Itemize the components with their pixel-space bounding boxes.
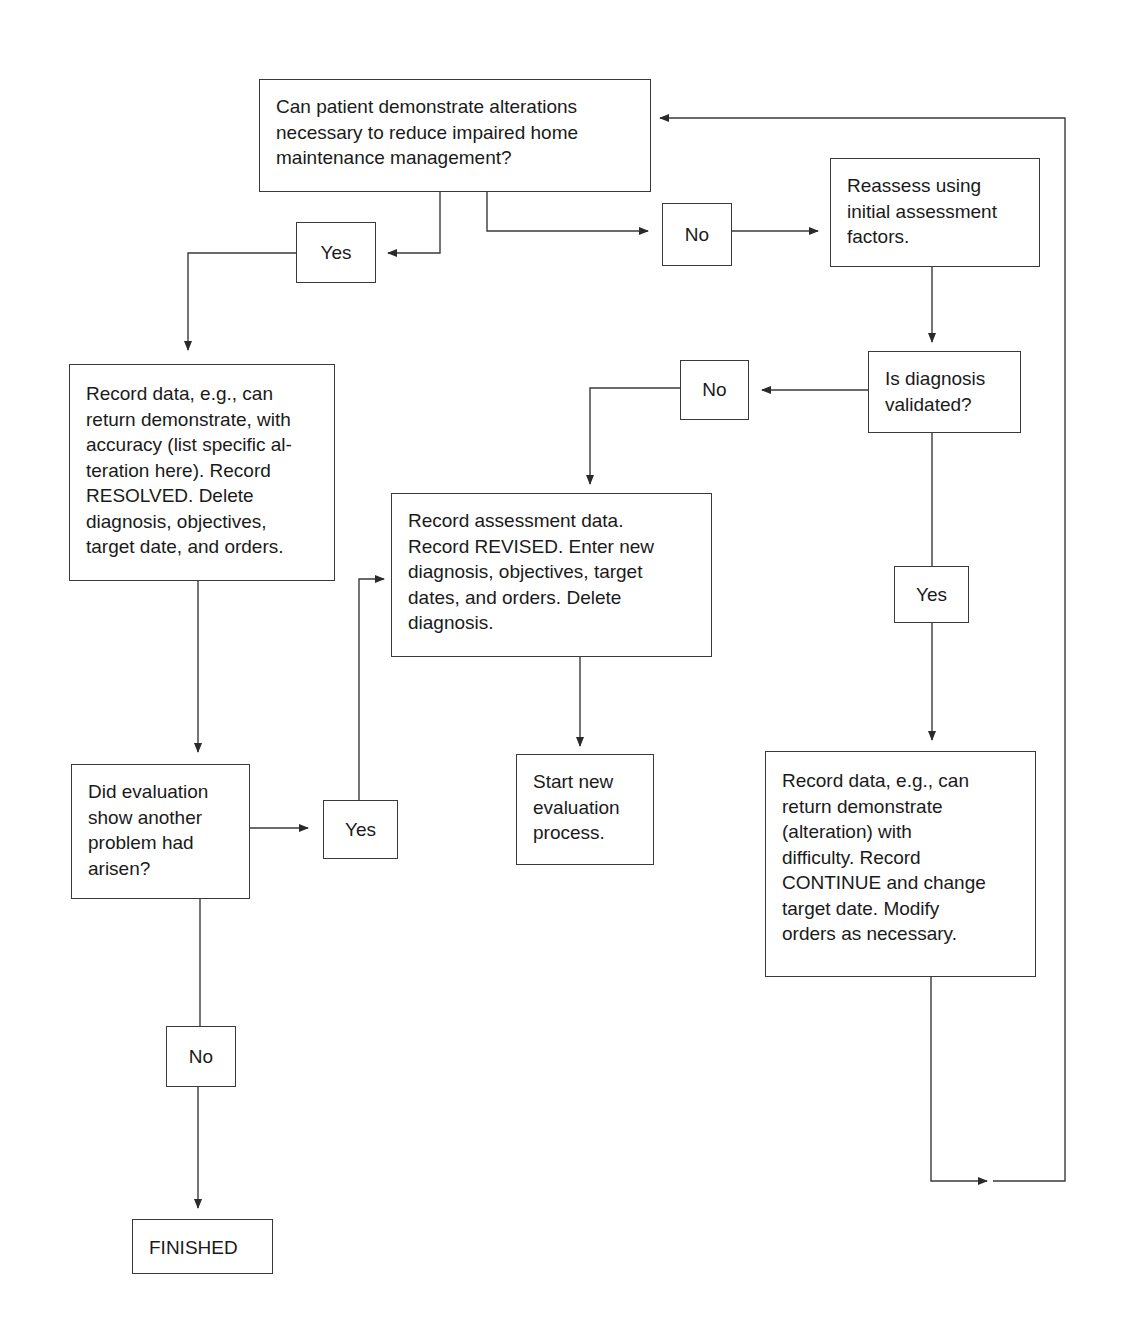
- diagnosis-validated-box: Is diagnosis validated?: [868, 351, 1021, 433]
- flowchart: Can patient demonstrate alterations nece…: [0, 0, 1123, 1334]
- no-label-box-2: No: [680, 360, 749, 420]
- no-label-box-3: No: [166, 1026, 236, 1087]
- no-label-box: No: [662, 203, 732, 266]
- yes-label-box-2: Yes: [894, 566, 969, 623]
- yes-label-box-3: Yes: [323, 800, 398, 859]
- start-question-box: Can patient demonstrate alterations nece…: [259, 79, 651, 192]
- yes-label-box: Yes: [296, 222, 376, 283]
- revised-record-box: Record assessment data. Record REVISED. …: [391, 493, 712, 657]
- continue-record-box: Record data, e.g., can return demonstrat…: [765, 751, 1036, 977]
- finished-box: FINISHED: [132, 1219, 273, 1274]
- start-new-evaluation-box: Start new evaluation process.: [516, 754, 654, 865]
- evaluation-question-box: Did evaluation show another problem had …: [71, 764, 250, 899]
- reassess-box: Reassess using initial assessment factor…: [830, 158, 1040, 267]
- resolved-record-box: Record data, e.g., can return demonstrat…: [69, 364, 335, 581]
